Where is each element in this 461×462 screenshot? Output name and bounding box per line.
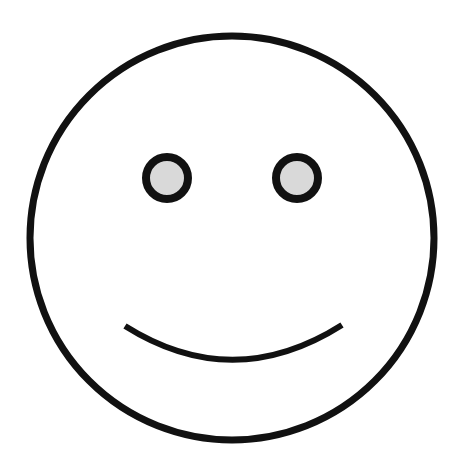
right-eye (276, 157, 318, 199)
background (0, 0, 461, 462)
smiley-face-icon (0, 0, 461, 462)
left-eye (146, 157, 188, 199)
smiley-face-canvas: smiley face (0, 0, 461, 462)
